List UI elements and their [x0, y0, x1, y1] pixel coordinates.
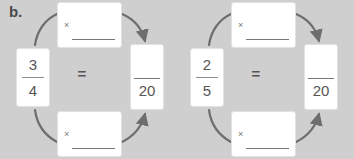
fraction-bar [22, 77, 44, 78]
multiply-icon: × [64, 130, 69, 139]
arc-right-bottom-in [209, 110, 231, 142]
fraction-bar [196, 77, 218, 78]
arc-left-top-in [35, 14, 57, 45]
fraction-numerator: 3 [29, 57, 37, 72]
arrow-left-bottom-out [122, 114, 145, 142]
fraction-denominator: 4 [29, 83, 37, 98]
equivalent-fraction-group-left: × 3 4 = 20 × [4, 0, 174, 159]
arc-left-bottom-in [35, 110, 57, 142]
result-fraction-card[interactable]: 20 [304, 44, 338, 110]
top-operation-answer-blank[interactable] [246, 39, 289, 40]
result-denominator: 20 [313, 83, 330, 99]
bottom-operation-answer-blank[interactable] [72, 148, 115, 149]
arrow-right-top-out [296, 14, 319, 41]
bottom-operation-card[interactable]: × [57, 111, 122, 157]
multiply-icon: × [238, 130, 243, 139]
source-fraction-card: 3 4 [16, 48, 50, 107]
equals-sign: = [74, 66, 90, 81]
result-fraction-card[interactable]: 20 [130, 44, 164, 110]
result-fraction-bar [308, 78, 334, 79]
bottom-operation-answer-blank[interactable] [246, 148, 289, 149]
arrow-left-top-out [122, 14, 145, 41]
arc-right-top-in [209, 14, 231, 45]
top-operation-card[interactable]: × [231, 2, 296, 48]
fraction-denominator: 5 [203, 83, 211, 98]
source-fraction-card: 2 5 [190, 48, 224, 107]
top-operation-card[interactable]: × [57, 2, 122, 48]
result-denominator: 20 [139, 83, 156, 99]
arrow-right-bottom-out [296, 114, 319, 142]
equals-sign: = [248, 66, 264, 81]
result-numerator-blank[interactable] [136, 56, 158, 73]
result-numerator-blank[interactable] [310, 56, 332, 73]
bottom-operation-card[interactable]: × [231, 111, 296, 157]
multiply-icon: × [64, 21, 69, 30]
exercise-b-worksheet: b. × 3 [0, 0, 354, 159]
result-fraction-bar [134, 78, 160, 79]
top-operation-answer-blank[interactable] [72, 39, 115, 40]
equivalent-fraction-group-right: × 2 5 = 20 × [178, 0, 348, 159]
fraction-numerator: 2 [203, 57, 211, 72]
multiply-icon: × [238, 21, 243, 30]
